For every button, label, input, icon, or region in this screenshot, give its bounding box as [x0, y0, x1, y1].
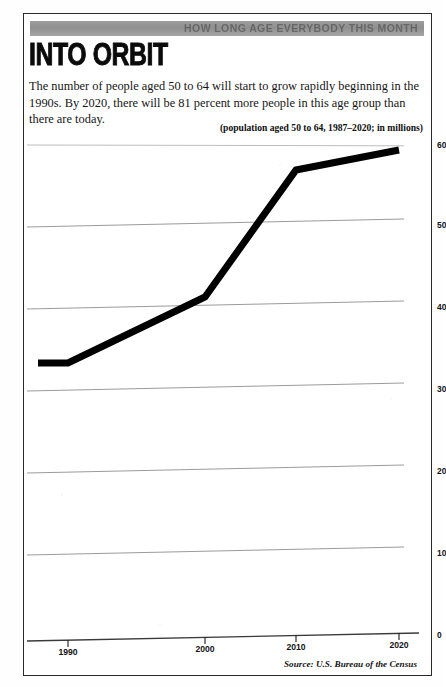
- chart-svg: [27, 136, 431, 652]
- ytick-label-40: 40: [437, 302, 446, 312]
- ytick-label-10: 10: [437, 548, 446, 558]
- data-series-line: [38, 150, 399, 363]
- masthead-banner: HOW LONG AGE EVERYBODY THIS MONTH: [30, 21, 424, 36]
- xtick-label-2000: 2000: [195, 644, 214, 654]
- ytick-label-20: 20: [437, 466, 446, 476]
- x-axis-line: [27, 633, 419, 641]
- xtick-label-2010: 2010: [286, 642, 305, 652]
- gridline-30: [27, 383, 404, 391]
- gridline-50: [27, 219, 404, 227]
- line-chart: 60 50 40 30 20 10 0: [27, 136, 431, 652]
- ytick-label-30: 30: [437, 384, 446, 394]
- source-note: Source: U.S. Bureau of the Census: [284, 659, 417, 669]
- ytick-label-50: 50: [437, 220, 446, 230]
- chart-gridlines: [27, 145, 404, 555]
- page-title: INTO ORBIT: [29, 39, 168, 70]
- chart-xticks: [68, 633, 399, 647]
- gridline-60: [27, 145, 404, 146]
- chart-subtitle: (population aged 50 to 64, 1987–2020; in…: [220, 122, 423, 133]
- gridline-20: [27, 465, 404, 473]
- xtick-label-2020: 2020: [389, 640, 408, 650]
- gridline-40: [27, 301, 404, 309]
- masthead-banner-text: HOW LONG AGE EVERYBODY THIS MONTH: [30, 21, 424, 36]
- ytick-label-0: 0: [437, 630, 442, 640]
- gridline-10: [27, 547, 404, 555]
- ytick-label-60: 60: [437, 140, 446, 150]
- xtick-label-1990: 1990: [58, 647, 77, 657]
- deck-paragraph: The number of people aged 50 to 64 will …: [29, 78, 424, 128]
